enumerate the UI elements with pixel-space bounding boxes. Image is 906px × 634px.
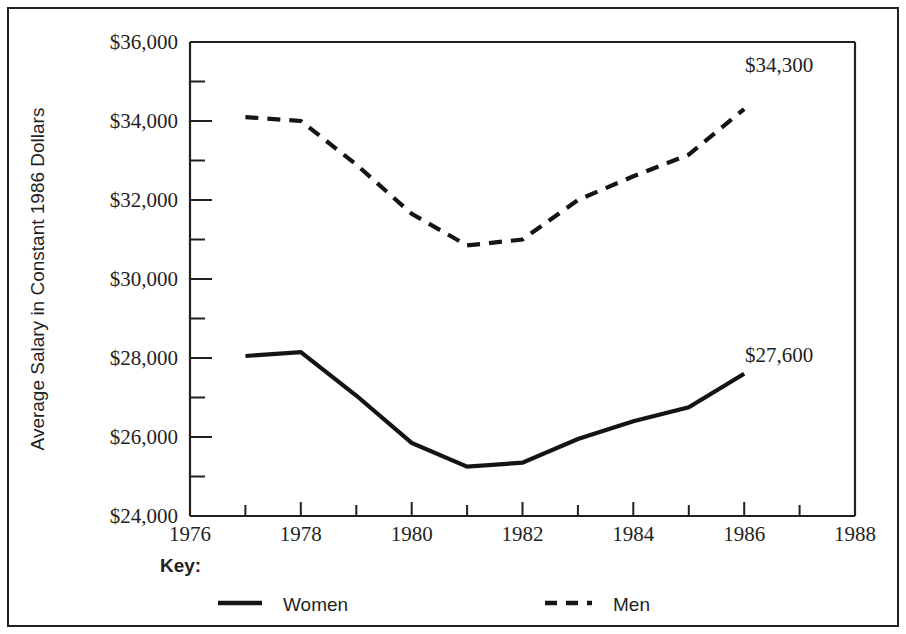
y-tick-label-28000: $28,000 <box>110 346 178 370</box>
x-axis-ticks <box>190 502 855 516</box>
y-axis-ticks <box>190 82 212 477</box>
x-tick-label-1978: 1978 <box>280 522 322 546</box>
x-tick-label-1984: 1984 <box>612 522 655 546</box>
x-tick-label-1982: 1982 <box>502 522 544 546</box>
x-tick-label-1976: 1976 <box>169 522 211 546</box>
series-line-women <box>245 352 744 467</box>
legend-label-women: Women <box>283 594 348 615</box>
annotation-men-1986: $34,300 <box>745 53 813 77</box>
x-tick-label-1986: 1986 <box>723 522 765 546</box>
plot-frame <box>190 42 855 516</box>
chart-canvas: $36,000 $34,000 $32,000 $30,000 $28,000 … <box>0 0 906 634</box>
series-line-men <box>245 109 744 245</box>
y-axis-title: Average Salary in Constant 1986 Dollars <box>27 108 48 451</box>
legend-entry-women[interactable]: Women <box>218 594 348 615</box>
x-tick-label-1988: 1988 <box>834 522 876 546</box>
y-tick-label-24000: $24,000 <box>110 504 178 528</box>
legend-label-men: Men <box>613 594 650 615</box>
x-axis-tick-labels: 1976 1978 1980 1982 1984 1986 1988 <box>169 522 876 546</box>
x-tick-label-1980: 1980 <box>391 522 433 546</box>
y-tick-label-30000: $30,000 <box>110 267 178 291</box>
legend-entry-men[interactable]: Men <box>545 594 650 615</box>
y-tick-label-34000: $34,000 <box>110 109 178 133</box>
annotation-women-1986: $27,600 <box>745 343 813 367</box>
legend-title: Key: <box>160 555 201 576</box>
y-axis-tick-labels: $36,000 $34,000 $32,000 $30,000 $28,000 … <box>110 30 178 528</box>
y-tick-label-36000: $36,000 <box>110 30 178 54</box>
y-tick-label-26000: $26,000 <box>110 425 178 449</box>
y-tick-label-32000: $32,000 <box>110 188 178 212</box>
salary-line-chart-figure: $36,000 $34,000 $32,000 $30,000 $28,000 … <box>0 0 906 634</box>
legend: Key: Women Men <box>160 555 650 615</box>
